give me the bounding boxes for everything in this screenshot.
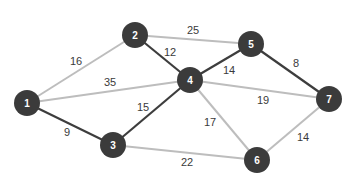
edges-layer (27, 35, 329, 160)
edge-4-6 (190, 80, 257, 160)
edge-weight-label: 12 (164, 46, 176, 58)
edge-weight-label: 22 (181, 156, 193, 168)
edge-6-7 (257, 99, 329, 160)
edge-weight-label: 19 (257, 94, 269, 106)
graph-node-1: 1 (14, 90, 40, 116)
graph-node-7: 7 (316, 86, 342, 112)
edge-1-2 (27, 35, 135, 103)
edge-1-3-highlighted (27, 103, 113, 145)
edge-2-5 (135, 35, 251, 44)
graph-node-5: 5 (238, 31, 264, 57)
edge-weight-label: 25 (187, 24, 199, 36)
graph-node-2: 2 (122, 22, 148, 48)
edge-weight-label: 17 (204, 116, 216, 128)
graph-node-6: 6 (244, 147, 270, 173)
graph-node-4: 4 (177, 67, 203, 93)
edge-weight-label: 16 (70, 55, 82, 67)
edge-weight-label: 8 (293, 57, 299, 69)
edge-weight-label: 14 (223, 64, 235, 76)
edge-weight-label: 9 (64, 126, 70, 138)
edge-weight-label: 14 (297, 131, 309, 143)
edge-weight-label: 35 (104, 76, 116, 88)
graph-node-3: 3 (100, 132, 126, 158)
edge-weight-label: 15 (137, 101, 149, 113)
